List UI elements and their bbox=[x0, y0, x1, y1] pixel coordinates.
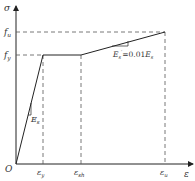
hardening-modulus-label: Es′=0.01Es bbox=[112, 49, 154, 60]
x-axis-label: ε bbox=[184, 169, 189, 179]
esh-label: εsh bbox=[74, 168, 85, 178]
origin-label: O bbox=[5, 164, 13, 174]
stress-strain-diagram: σ ε O fu fy εy εsh εu Es Es′=0.01Es bbox=[0, 0, 195, 181]
diagram-svg: σ ε O fu fy εy εsh εu Es Es′=0.01Es bbox=[0, 0, 195, 181]
eu-label: εu bbox=[160, 168, 168, 178]
fu-label: fu bbox=[3, 27, 11, 38]
elastic-modulus-label: Es bbox=[30, 115, 40, 125]
ey-label: εy bbox=[37, 168, 45, 179]
y-axis-label: σ bbox=[4, 3, 11, 13]
fy-label: fy bbox=[3, 50, 11, 62]
hardening-slope-triangle bbox=[112, 41, 128, 46]
